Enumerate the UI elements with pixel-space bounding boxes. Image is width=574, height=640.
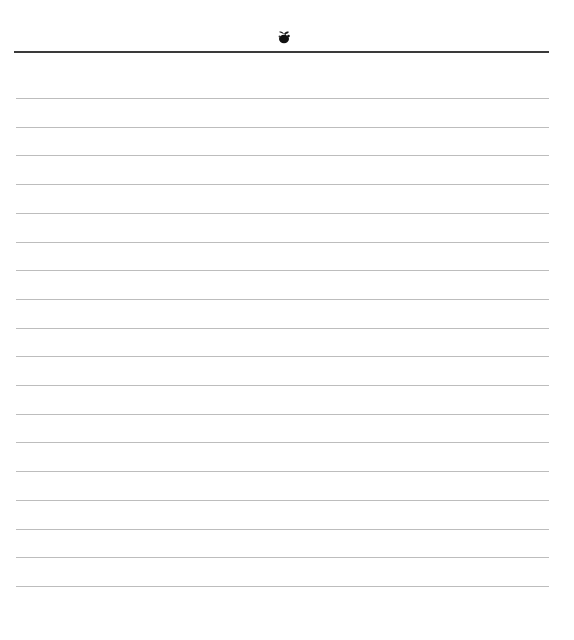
ruled-line xyxy=(16,500,549,501)
ruled-line xyxy=(16,356,549,357)
ruled-line xyxy=(16,471,549,472)
ruled-line xyxy=(16,328,549,329)
fleuron-ornament-icon xyxy=(277,31,291,44)
ruled-line xyxy=(16,98,549,99)
header-rule xyxy=(14,51,549,53)
ruled-line xyxy=(16,270,549,271)
ruled-line xyxy=(16,213,549,214)
ruled-line xyxy=(16,586,549,587)
ruled-line xyxy=(16,184,549,185)
ruled-line xyxy=(16,414,549,415)
ruled-line xyxy=(16,127,549,128)
ruled-line xyxy=(16,242,549,243)
ruled-line xyxy=(16,155,549,156)
ruled-line xyxy=(16,529,549,530)
ruled-line xyxy=(16,299,549,300)
ruled-line xyxy=(16,557,549,558)
lined-page xyxy=(0,0,574,640)
ruled-line xyxy=(16,442,549,443)
ruled-line xyxy=(16,385,549,386)
